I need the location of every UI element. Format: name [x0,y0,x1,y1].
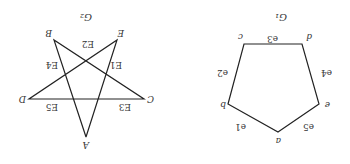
g1-vertex-c: c [238,32,243,42]
g1-vertex-b: b [220,100,226,110]
g1-pentagon [228,44,319,132]
graph-figure: G₁ a b c d e e1 e2 e3 e4 e5 G₂ A B C D E… [0,0,350,164]
g1-edge-e5: e5 [303,122,314,132]
g2-title: G₂ [80,12,92,23]
g1-vertex-e: e [325,100,330,110]
g2-edge-E2: E2 [82,39,94,49]
g2-vertex-A: A [82,140,90,150]
g1-vertex-a: a [276,136,281,146]
g2-vertex-E: E [117,28,125,38]
g1-edge-e1: e1 [235,122,246,132]
g1-edge-e4: e4 [321,68,332,78]
g1-vertex-d: d [306,32,312,42]
g2-vertex-B: B [45,28,53,38]
g1-edge-e3: e3 [267,34,278,44]
g2-edge-E4: E4 [45,60,58,70]
graph-g1: G₁ a b c d e e1 e2 e3 e4 e5 [217,12,332,146]
g2-vertex-C: C [147,94,154,104]
g2-vertex-D: D [19,94,27,104]
g2-edge-E5: E5 [45,102,58,112]
g1-title: G₁ [275,12,287,23]
g2-pentagram [29,40,144,137]
g2-edge-E1: E1 [110,60,122,70]
graph-svg: G₁ a b c d e e1 e2 e3 e4 e5 G₂ A B C D E… [0,0,350,164]
g1-edge-e2: e2 [217,68,228,78]
graph-g2: G₂ A B C D E E1 E2 E3 E4 E5 [19,12,154,150]
g2-edge-E3: E3 [118,102,131,112]
